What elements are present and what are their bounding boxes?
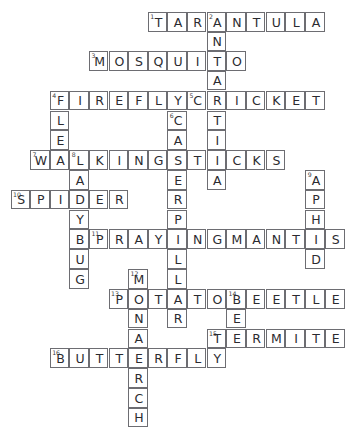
crossword-cell[interactable]: H [128, 408, 148, 427]
crossword-cell[interactable]: F [167, 348, 187, 368]
crossword-cell[interactable]: P [305, 190, 325, 210]
crossword-cell[interactable]: 7W [30, 150, 50, 170]
crossword-cell[interactable]: A [167, 289, 187, 309]
crossword-cell[interactable]: N [266, 229, 286, 249]
crossword-cell[interactable]: 9A [305, 170, 325, 190]
crossword-cell[interactable]: Q [148, 51, 168, 71]
crossword-cell[interactable]: T [246, 12, 266, 32]
crossword-cell[interactable]: L [305, 289, 325, 309]
crossword-cell[interactable]: U [167, 51, 187, 71]
crossword-cell[interactable]: 1T [148, 12, 168, 32]
crossword-cell[interactable]: C [246, 91, 266, 111]
crossword-cell[interactable]: R [109, 229, 129, 249]
crossword-cell[interactable]: T [207, 111, 227, 131]
crossword-cell[interactable]: R [148, 348, 168, 368]
crossword-cell[interactable]: A [128, 229, 148, 249]
crossword-cell[interactable]: 4F [50, 91, 70, 111]
crossword-cell[interactable]: L [167, 269, 187, 289]
crossword-cell[interactable]: O [128, 289, 148, 309]
crossword-cell[interactable]: O [109, 51, 129, 71]
crossword-cell[interactable]: 2A [207, 12, 227, 32]
crossword-cell[interactable]: P [30, 190, 50, 210]
crossword-cell[interactable]: T [148, 289, 168, 309]
crossword-cell[interactable]: E [226, 309, 246, 329]
crossword-cell[interactable]: R [89, 91, 109, 111]
crossword-cell[interactable]: P [167, 210, 187, 230]
crossword-cell[interactable]: L [285, 12, 305, 32]
crossword-cell[interactable]: B [69, 229, 89, 249]
crossword-cell[interactable]: R [187, 12, 207, 32]
crossword-cell[interactable]: A [167, 130, 187, 150]
crossword-cell[interactable]: 5C [187, 91, 207, 111]
crossword-cell[interactable]: 6C [167, 111, 187, 131]
crossword-cell[interactable]: T [305, 91, 325, 111]
crossword-cell[interactable]: K [89, 150, 109, 170]
crossword-cell[interactable]: T [305, 329, 325, 349]
crossword-cell[interactable]: M [266, 329, 286, 349]
crossword-cell[interactable]: E [167, 170, 187, 190]
crossword-cell[interactable]: E [50, 130, 70, 150]
crossword-cell[interactable]: T [285, 289, 305, 309]
crossword-cell[interactable]: I [167, 229, 187, 249]
crossword-cell[interactable]: R [167, 190, 187, 210]
crossword-cell[interactable]: A [69, 170, 89, 190]
crossword-cell[interactable]: O [226, 51, 246, 71]
crossword-cell[interactable]: 3M [89, 51, 109, 71]
crossword-cell[interactable]: T [187, 150, 207, 170]
crossword-cell[interactable]: C [128, 388, 148, 408]
crossword-cell[interactable]: N [128, 150, 148, 170]
crossword-cell[interactable]: S [128, 51, 148, 71]
crossword-cell[interactable]: U [69, 348, 89, 368]
crossword-cell[interactable]: L [187, 348, 207, 368]
crossword-cell[interactable]: Y [167, 91, 187, 111]
crossword-cell[interactable]: E [285, 91, 305, 111]
crossword-cell[interactable]: A [207, 71, 227, 91]
crossword-cell[interactable]: 15T [207, 329, 227, 349]
crossword-cell[interactable]: E [325, 329, 345, 349]
crossword-cell[interactable]: O [207, 289, 227, 309]
crossword-cell[interactable]: I [207, 130, 227, 150]
crossword-cell[interactable]: D [69, 190, 89, 210]
crossword-cell[interactable]: G [148, 150, 168, 170]
crossword-cell[interactable]: R [128, 368, 148, 388]
crossword-cell[interactable]: A [207, 170, 227, 190]
crossword-cell[interactable]: E [128, 348, 148, 368]
crossword-cell[interactable]: T [285, 229, 305, 249]
crossword-cell[interactable]: L [167, 249, 187, 269]
crossword-cell[interactable]: M [226, 229, 246, 249]
crossword-cell[interactable]: H [305, 210, 325, 230]
crossword-cell[interactable]: 13P [109, 289, 129, 309]
crossword-cell[interactable]: A [246, 229, 266, 249]
crossword-cell[interactable]: U [266, 12, 286, 32]
crossword-cell[interactable]: N [226, 12, 246, 32]
crossword-cell[interactable]: S [167, 150, 187, 170]
crossword-cell[interactable]: D [305, 249, 325, 269]
crossword-cell[interactable]: E [89, 190, 109, 210]
crossword-cell[interactable]: Y [69, 210, 89, 230]
crossword-cell[interactable]: L [148, 91, 168, 111]
crossword-cell[interactable]: U [69, 249, 89, 269]
crossword-cell[interactable]: N [128, 309, 148, 329]
crossword-cell[interactable]: I [305, 229, 325, 249]
crossword-cell[interactable]: I [50, 190, 70, 210]
crossword-cell[interactable]: I [207, 150, 227, 170]
crossword-cell[interactable]: R [246, 329, 266, 349]
crossword-cell[interactable]: 12M [128, 269, 148, 289]
crossword-cell[interactable]: T [89, 348, 109, 368]
crossword-cell[interactable]: Y [148, 229, 168, 249]
crossword-cell[interactable]: R [207, 91, 227, 111]
crossword-cell[interactable]: F [128, 91, 148, 111]
crossword-cell[interactable]: 11P [89, 229, 109, 249]
crossword-cell[interactable]: 14B [226, 289, 246, 309]
crossword-cell[interactable]: A [128, 329, 148, 349]
crossword-cell[interactable]: S [266, 150, 286, 170]
crossword-cell[interactable]: L [50, 111, 70, 131]
crossword-cell[interactable]: I [285, 329, 305, 349]
crossword-cell[interactable]: G [207, 229, 227, 249]
crossword-cell[interactable]: E [325, 289, 345, 309]
crossword-cell[interactable]: Y [207, 348, 227, 368]
crossword-cell[interactable]: N [187, 229, 207, 249]
crossword-cell[interactable]: A [305, 12, 325, 32]
crossword-cell[interactable]: T [109, 348, 129, 368]
